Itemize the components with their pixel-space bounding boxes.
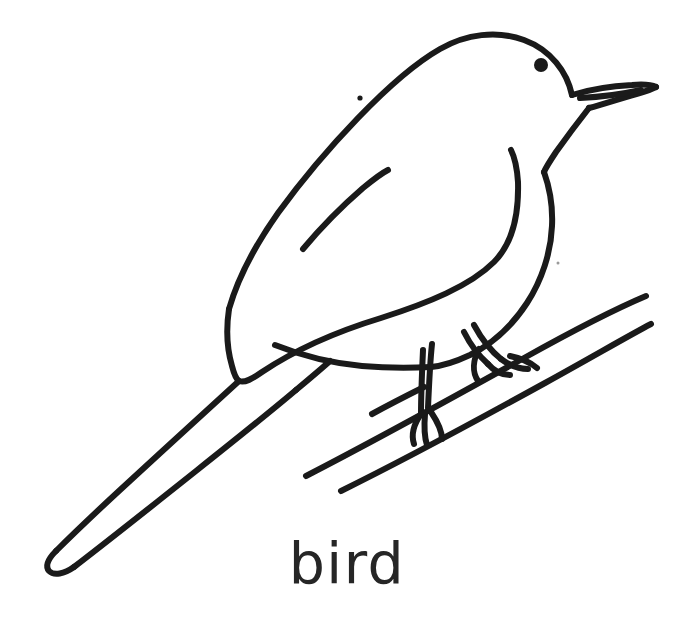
stray-dot-lower (557, 262, 560, 265)
toe-rear-2 (424, 414, 427, 445)
bird-line-art (0, 0, 694, 620)
stray-dot-upper (357, 95, 362, 100)
leg-rear-tarsus (421, 350, 423, 414)
coloring-page: bird (0, 0, 694, 620)
leg-rear-upper (428, 344, 432, 408)
eye-dot (534, 58, 548, 72)
